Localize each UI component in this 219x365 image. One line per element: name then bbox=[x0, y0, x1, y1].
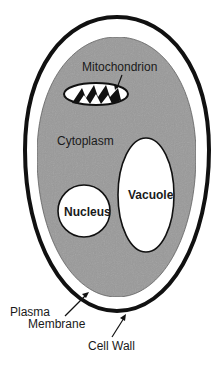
label-plasma-membrane-line2: Membrane bbox=[28, 317, 86, 331]
label-cytoplasm: Cytoplasm bbox=[57, 134, 114, 148]
cytoplasm bbox=[37, 37, 196, 297]
label-cell-wall: Cell Wall bbox=[88, 339, 135, 353]
label-mitochondrion: Mitochondrion bbox=[82, 60, 157, 74]
cell-wall-pointer bbox=[112, 318, 124, 337]
plasma-membrane-pointer bbox=[65, 295, 86, 316]
cell-diagram: Mitochondrion Cytoplasm Nucleus Vacuole … bbox=[0, 0, 219, 365]
label-nucleus: Nucleus bbox=[64, 205, 111, 219]
label-vacuole: Vacuole bbox=[128, 188, 174, 202]
